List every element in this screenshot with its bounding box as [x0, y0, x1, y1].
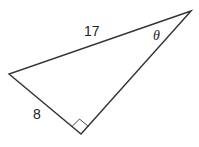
right-angle-marker — [72, 119, 89, 127]
triangle-diagram: 17 θ 8 — [0, 0, 199, 147]
hypotenuse-label: 17 — [84, 23, 100, 39]
angle-theta-label: θ — [153, 28, 160, 43]
leg-label: 8 — [33, 106, 41, 122]
